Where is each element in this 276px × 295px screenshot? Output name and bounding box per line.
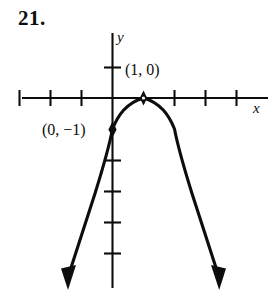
coordinate-graph (0, 0, 276, 295)
x-axis-label: x (253, 101, 260, 116)
parabola-curve (71, 98, 217, 269)
y-intercept-label: (0, −1) (42, 122, 86, 138)
vertex-point-center (142, 96, 145, 99)
vertex-label: (1, 0) (125, 62, 160, 78)
right-arrowhead (211, 265, 226, 290)
left-arrowhead (61, 265, 76, 290)
parabola-figure-panel: 21. (0, 0, 276, 295)
problem-number: 21. (18, 8, 46, 29)
y-axis-label: y (117, 30, 124, 45)
